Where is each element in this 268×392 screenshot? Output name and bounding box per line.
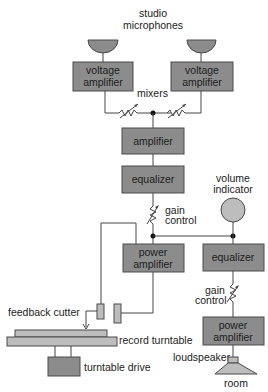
microphone-right-icon [187, 40, 216, 53]
power-amplifier-main-block: power amplifier [123, 244, 184, 272]
turntable-drive-block [48, 357, 80, 376]
gain-control-label-2: control [165, 214, 197, 226]
studio-microphones-label-2: microphones [123, 19, 183, 31]
loudspeaker-label: loudspeaker [173, 351, 231, 363]
voltage-amplifier-right: voltage amplifier [171, 62, 233, 91]
mixer-left-resistor-icon [119, 110, 137, 116]
svg-text:equalizer: equalizer [212, 251, 255, 263]
record-turntable-label: record turntable [119, 334, 193, 346]
svg-text:amplifier: amplifier [133, 135, 173, 147]
svg-text:amplifier: amplifier [182, 76, 222, 88]
cutter-driver-icon [114, 304, 121, 323]
loudspeaker-icon [228, 357, 238, 363]
svg-text:voltage: voltage [185, 64, 219, 76]
record-turntable [7, 330, 117, 346]
feedback-cutter-head-icon [97, 304, 104, 319]
power-amplifier-monitor-block: power amplifier [203, 317, 264, 345]
microphone-left-icon [88, 40, 118, 53]
room-label: room [224, 377, 248, 389]
svg-text:amplifier: amplifier [133, 258, 173, 270]
turntable-drive-label: turntable drive [84, 361, 151, 373]
equalizer-main-block: equalizer [122, 166, 184, 193]
svg-text:power: power [139, 246, 168, 258]
amplifier-block: amplifier [122, 128, 184, 154]
svg-text:equalizer: equalizer [132, 173, 175, 185]
volume-indicator-meter-icon [221, 198, 245, 222]
feedback-cutter-label: feedback cutter [8, 306, 80, 318]
volume-indicator-label-2: indicator [213, 183, 253, 195]
mixers-label: mixers [137, 87, 168, 99]
svg-text:power: power [219, 319, 248, 331]
equalizer-monitor-block: equalizer [203, 244, 264, 271]
svg-text:amplifier: amplifier [83, 76, 123, 88]
recording-signal-flow-diagram: studio microphones voltage amplifier vol… [0, 0, 268, 392]
gain-control-monitor-label-2: control [195, 294, 227, 306]
svg-text:voltage: voltage [86, 64, 120, 76]
studio-microphones-label: studio [139, 7, 167, 19]
voltage-amplifier-left: voltage amplifier [73, 62, 133, 91]
svg-text:amplifier: amplifier [213, 331, 253, 343]
